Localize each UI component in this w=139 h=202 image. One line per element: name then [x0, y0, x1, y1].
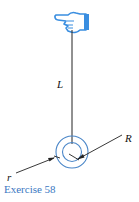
length-label: L	[57, 79, 63, 90]
inner-radius-arrow	[16, 158, 54, 173]
pointing-hand-icon	[55, 13, 89, 33]
inner-radius-label: r	[7, 172, 11, 183]
pendulum-diagram	[0, 0, 139, 202]
exercise-caption: Exercise 58	[4, 184, 56, 195]
outer-radius-arrow	[78, 135, 122, 159]
outer-radius-label: R	[125, 133, 132, 144]
